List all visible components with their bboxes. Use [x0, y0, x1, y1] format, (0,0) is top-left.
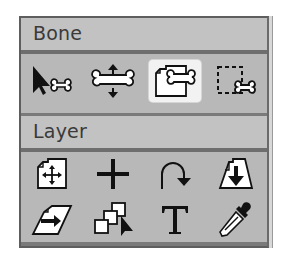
layer-scale-down-icon: [216, 156, 256, 192]
arrow-bone-icon: [29, 63, 75, 99]
tool-eyedropper[interactable]: [210, 199, 262, 241]
layer-shear-icon: [30, 202, 74, 238]
crosshair-icon: [93, 156, 133, 192]
text-t-icon: [155, 202, 195, 238]
tool-select-bone[interactable]: [26, 60, 78, 102]
tool-select-layers[interactable]: [87, 199, 139, 241]
layer-section-title: Layer: [33, 120, 87, 142]
stacked-layers-arrow-icon: [90, 201, 136, 239]
layer-move-icon: [32, 156, 72, 192]
panel-right-edge: [269, 16, 273, 248]
layer-bone-icon: [152, 63, 198, 99]
panel-bottom-border: [21, 242, 267, 246]
tool-bind-layer[interactable]: [149, 60, 201, 102]
bone-section-title: Bone: [33, 22, 82, 44]
tool-bind-points[interactable]: [210, 60, 262, 102]
tool-set-origin[interactable]: [87, 153, 139, 195]
tool-translate-layer[interactable]: [26, 153, 78, 195]
bone-section-header: Bone: [21, 18, 267, 54]
tool-scale-layer[interactable]: [210, 153, 262, 195]
tools-panel: Bone: [19, 16, 269, 248]
tool-shear-layer[interactable]: [26, 199, 78, 241]
dashed-box-bone-icon: [213, 63, 259, 99]
tool-rotate-layer[interactable]: [149, 153, 201, 195]
tool-text[interactable]: [149, 199, 201, 241]
layer-tools-row-1: [21, 151, 267, 197]
layer-tools-row-2: [21, 197, 267, 243]
layer-section-header: Layer: [21, 113, 267, 152]
rotate-arrow-icon: [155, 156, 195, 192]
bone-arrows-icon: [90, 61, 136, 101]
tool-translate-bone[interactable]: [87, 60, 139, 102]
bone-tools-row: [21, 56, 267, 106]
eyedropper-icon: [216, 201, 256, 239]
